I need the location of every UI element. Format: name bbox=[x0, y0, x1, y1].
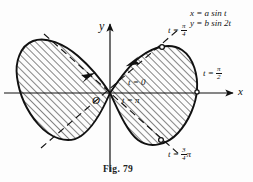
fraction-numerator: π bbox=[216, 66, 222, 73]
fraction-denominator: 2 bbox=[216, 73, 222, 81]
y-axis-label: y bbox=[99, 20, 104, 32]
x-axis-label: x bbox=[238, 86, 243, 97]
marker-t-3pi-over-4 bbox=[159, 138, 164, 143]
left-lobe-fill bbox=[17, 39, 110, 140]
fraction-denominator: 4 bbox=[181, 30, 187, 38]
label-t-3pi-over-4-suffix: π bbox=[187, 149, 192, 159]
label-t-zero: t = 0 bbox=[128, 78, 146, 87]
equation-y: y = b sin 2t bbox=[190, 19, 231, 29]
figure-caption: Fig. 79 bbox=[103, 164, 133, 174]
fraction-pi-over-4: π 4 bbox=[181, 23, 187, 38]
label-t-zero-prefix: t = bbox=[128, 77, 141, 87]
label-t-pi: t = π bbox=[122, 96, 140, 105]
fraction-numerator: 3 bbox=[181, 147, 187, 154]
label-t-pi-over-4: t = π 4 bbox=[168, 23, 187, 38]
label-t-3pi-over-4: t = 3 4 π bbox=[168, 147, 191, 162]
fraction-3-over-4: 3 4 bbox=[181, 147, 187, 162]
label-t-3pi-over-4-prefix: t = bbox=[168, 149, 181, 159]
origin-label: O bbox=[92, 95, 100, 106]
fraction-pi-over-2: π 2 bbox=[216, 66, 222, 81]
marker-t-pi-over-4 bbox=[160, 45, 165, 50]
fraction-denominator: 4 bbox=[181, 154, 187, 162]
label-t-pi-over-2: t = π 2 bbox=[203, 66, 222, 81]
label-t-pi-prefix: t = bbox=[122, 95, 135, 105]
label-t-pi-over-2-prefix: t = bbox=[203, 68, 216, 78]
label-t-pi-over-4-prefix: t = bbox=[168, 25, 181, 35]
figure-79-container: y x O x = a sin t y = b sin 2t t = 0 t =… bbox=[0, 0, 253, 182]
fraction-numerator: π bbox=[181, 23, 187, 30]
parametric-equations: x = a sin t y = b sin 2t bbox=[190, 9, 231, 28]
label-t-zero-value: 0 bbox=[141, 77, 146, 87]
label-t-pi-value: π bbox=[135, 95, 140, 105]
marker-t-pi-over-2 bbox=[195, 90, 199, 94]
